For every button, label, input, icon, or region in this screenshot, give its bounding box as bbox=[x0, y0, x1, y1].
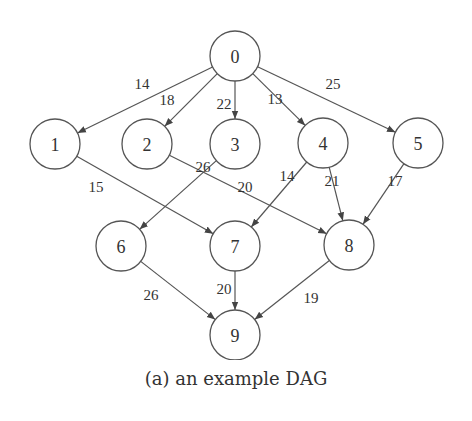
edge-weight-8-9: 19 bbox=[304, 290, 319, 306]
node-4: 4 bbox=[298, 118, 348, 168]
edge-weight-5-8: 17 bbox=[388, 173, 404, 189]
node-8: 8 bbox=[324, 220, 374, 270]
node-7: 7 bbox=[210, 221, 260, 271]
node-5: 5 bbox=[393, 118, 443, 168]
node-9: 9 bbox=[210, 310, 260, 360]
node-2: 2 bbox=[122, 119, 172, 169]
node-label: 9 bbox=[231, 326, 240, 346]
node-3: 3 bbox=[210, 119, 260, 169]
edge-weight-2-8: 20 bbox=[238, 179, 253, 195]
edge-weight-0-2: 18 bbox=[160, 92, 175, 108]
edge-weight-0-5: 25 bbox=[326, 76, 341, 92]
figure-caption: (a) an example DAG bbox=[0, 368, 472, 389]
edge-weight-0-4: 13 bbox=[268, 91, 283, 107]
node-label: 8 bbox=[345, 236, 354, 256]
edge-weight-0-1: 14 bbox=[135, 76, 151, 92]
edge-weight-3-6: 26 bbox=[196, 159, 212, 175]
node-label: 5 bbox=[414, 134, 423, 154]
node-label: 0 bbox=[231, 47, 240, 67]
edge-weight-7-9: 20 bbox=[217, 281, 232, 297]
edge-weight-0-3: 22 bbox=[217, 96, 232, 112]
node-6: 6 bbox=[96, 221, 146, 271]
node-label: 3 bbox=[231, 135, 240, 155]
node-label: 4 bbox=[319, 134, 328, 154]
node-label: 6 bbox=[117, 237, 126, 257]
dag-figure: 0123456789 1418221325152620142117262019 … bbox=[0, 0, 472, 421]
dag-graph: 0123456789 1418221325152620142117262019 bbox=[0, 0, 472, 360]
node-1: 1 bbox=[30, 119, 80, 169]
edge-weight-4-7: 14 bbox=[280, 168, 296, 184]
edge-weights-layer: 1418221325152620142117262019 bbox=[89, 76, 404, 306]
nodes-layer: 0123456789 bbox=[30, 31, 443, 360]
edge-weight-6-9: 26 bbox=[144, 287, 160, 303]
edge-weight-1-7: 15 bbox=[89, 179, 104, 195]
node-label: 2 bbox=[143, 135, 152, 155]
node-label: 7 bbox=[231, 237, 240, 257]
edge-weight-4-8: 21 bbox=[325, 173, 340, 189]
node-label: 1 bbox=[51, 135, 60, 155]
node-0: 0 bbox=[210, 31, 260, 81]
